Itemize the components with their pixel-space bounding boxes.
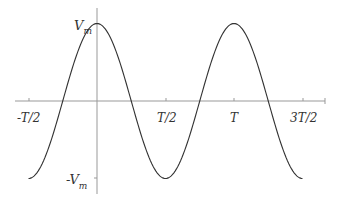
cosine-wave-chart: Vm -Vm -T/2 T/2 T 3T/2 bbox=[0, 0, 338, 203]
vm-label: Vm bbox=[74, 18, 92, 36]
x-label-three-half: 3T/2 bbox=[290, 111, 317, 125]
x-label-T: T bbox=[230, 111, 239, 125]
x-label-neg-half: -T/2 bbox=[17, 111, 40, 125]
neg-vm-label: -Vm bbox=[66, 172, 87, 191]
x-label-half: T/2 bbox=[157, 111, 177, 125]
